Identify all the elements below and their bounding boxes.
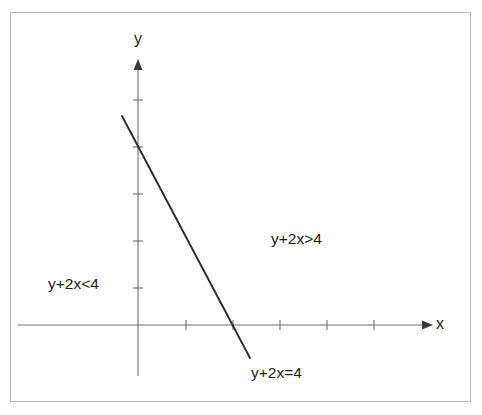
x-axis-arrow-icon [422, 321, 433, 330]
annotation-boundary-line-equation: y+2x=4 [251, 364, 302, 381]
annotation-greater-than-region: y+2x>4 [271, 230, 322, 247]
annotation-less-than-region: y+2x<4 [48, 275, 99, 292]
coordinate-plot: x y y+2x>4 y+2x<4 y+2x=4 [0, 0, 482, 415]
figure-root: x y y+2x>4 y+2x<4 y+2x=4 [0, 0, 482, 415]
y-axis-label: y [134, 30, 142, 47]
y-axis-arrow-icon [134, 59, 143, 70]
x-axis-label: x [436, 315, 444, 332]
